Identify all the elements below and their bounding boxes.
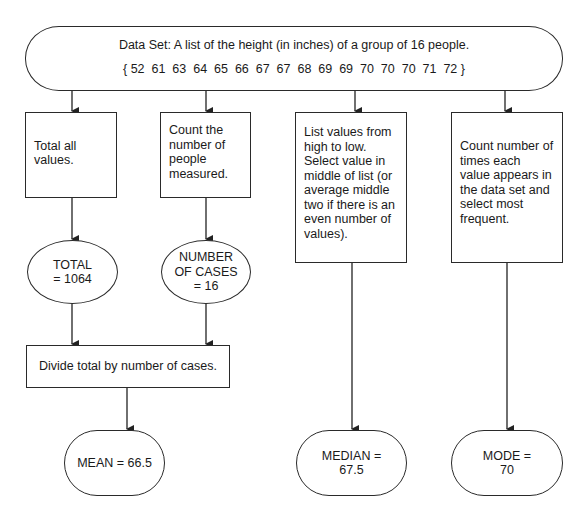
dataset-box: Data Set: A list of the height (in inche… [25,26,563,91]
step-median-box: List values from high to low. Select val… [295,112,407,263]
median-result-line: MEDIAN = [322,449,381,464]
step-mode-line: value appears in [460,168,554,183]
median-result-line: 67.5 [339,463,363,478]
total-result-line: TOTAL [53,258,92,273]
step-median-line: values). [304,227,398,242]
step-median-line: two if there is an [304,198,398,213]
step-mode-line: the data set and [460,183,554,198]
step-median-line: high to low. [304,140,398,155]
step-divide-box: Divide total by number of cases. [26,345,230,388]
step-total-box: Total all values. [25,112,117,198]
step-median-line: middle of list (or [304,169,398,184]
dataset-title: Data Set: A list of the height (in inche… [26,38,562,53]
step-median-line: Select value in [304,154,398,169]
step-mode-line: select most [460,197,554,212]
step-median-line: List values from [304,125,398,140]
total-result-ellipse: TOTAL = 1064 [27,240,118,304]
step-total-line: values. [34,153,108,168]
mean-result-line: MEAN = 66.5 [77,456,152,471]
step-count-box: Count the number of people measured. [160,112,251,198]
cases-result-line: OF CASES [174,265,237,280]
mean-result-terminal: MEAN = 66.5 [64,430,165,496]
cases-result-line: NUMBER [179,250,233,265]
step-mode-box: Count number of times each value appears… [451,112,563,263]
mode-result-line: 70 [500,463,514,478]
step-total-line: Total all [34,139,108,154]
step-mode-line: frequent. [460,212,554,227]
step-mode-line: Count number of [460,139,554,154]
step-count-line: people [169,152,242,167]
step-mode-line: times each [460,154,554,169]
mode-result-line: MODE = [483,449,531,464]
step-count-line: measured. [169,167,242,182]
dataset-values: { 52 61 63 64 65 66 67 67 68 69 69 70 70… [26,62,562,77]
cases-result-line: = 16 [194,279,219,294]
step-divide-label: Divide total by number of cases. [39,359,221,374]
step-median-line: average middle [304,183,398,198]
cases-result-ellipse: NUMBER OF CASES = 16 [161,240,251,304]
median-result-terminal: MEDIAN = 67.5 [296,430,407,496]
step-median-line: even number of [304,212,398,227]
mode-result-terminal: MODE = 70 [451,430,563,496]
step-count-line: Count the [169,123,242,138]
step-count-line: number of [169,138,242,153]
total-result-line: = 1064 [53,272,92,287]
